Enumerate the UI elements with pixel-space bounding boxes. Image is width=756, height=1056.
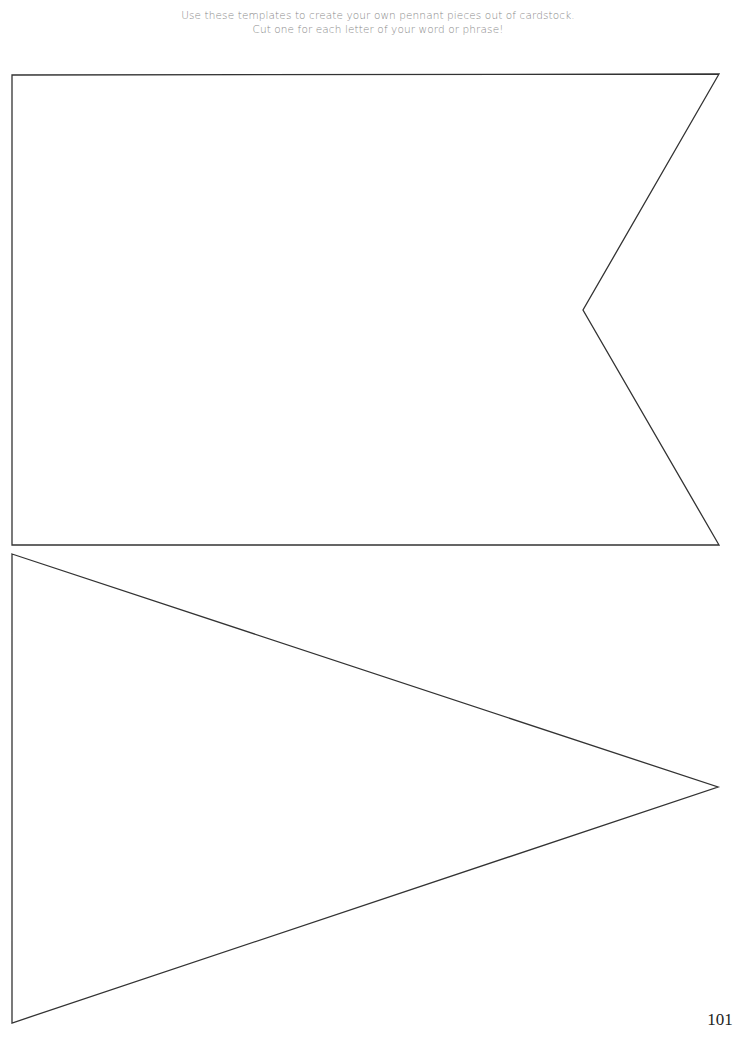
swallowtail-flag-template	[12, 74, 719, 545]
pennant-templates	[0, 0, 756, 1056]
page-number: 101	[700, 1010, 740, 1030]
triangle-pennant-template	[12, 554, 718, 1023]
